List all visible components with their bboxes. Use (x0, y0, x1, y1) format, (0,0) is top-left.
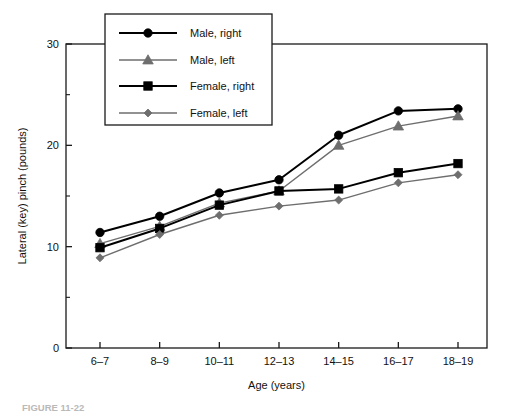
y-tick-label: 30 (47, 38, 59, 50)
legend-label: Male, right (190, 27, 241, 39)
marker-square (215, 201, 223, 209)
marker-diamond (394, 179, 402, 187)
x-tick-label: 18–19 (443, 355, 474, 367)
y-axis: 0102030 (47, 38, 72, 354)
y-tick-label: 10 (47, 241, 59, 253)
marker-diamond (275, 202, 283, 210)
x-tick-label: 8–9 (150, 355, 168, 367)
marker-circle (155, 212, 163, 220)
marker-square (96, 243, 104, 251)
marker-diamond (454, 171, 462, 179)
x-tick-label: 10–11 (204, 355, 234, 367)
x-tick-label: 12–13 (264, 355, 295, 367)
series-female-left (96, 171, 462, 262)
marker-diamond (215, 211, 223, 219)
marker-triangle (453, 111, 464, 120)
legend: Male, rightMale, leftFemale, rightFemale… (105, 14, 272, 125)
legend-label: Male, left (190, 54, 235, 66)
data-series-group (95, 105, 464, 262)
x-tick-label: 6–7 (91, 355, 109, 367)
figure-caption: FIGURE 11-22 (22, 402, 84, 412)
marker-square (454, 159, 462, 167)
marker-circle (334, 131, 342, 139)
marker-square (394, 168, 402, 176)
y-tick-label: 20 (47, 139, 59, 151)
marker-circle (275, 176, 283, 184)
marker-circle (394, 107, 402, 115)
marker-square (275, 187, 283, 195)
marker-circle (215, 189, 223, 197)
x-axis-title: Age (years) (248, 379, 305, 391)
marker-square (144, 82, 152, 90)
y-tick-label: 0 (53, 342, 59, 354)
marker-circle (144, 29, 152, 37)
legend-label: Female, right (190, 80, 254, 92)
series-line (100, 109, 458, 233)
x-axis: 6–78–910–1112–1314–1516–1718–19 (91, 342, 473, 367)
x-tick-label: 14–15 (323, 355, 354, 367)
legend-label: Female, left (190, 107, 247, 119)
x-tick-label: 16–17 (383, 355, 414, 367)
marker-circle (96, 228, 104, 236)
y-axis-title: Lateral (key) pinch (pounds) (16, 128, 28, 265)
figure-container: 0102030 6–78–910–1112–1314–1516–1718–19 … (0, 0, 505, 412)
marker-square (334, 185, 342, 193)
marker-diamond (96, 254, 104, 262)
lateral-key-pinch-line-chart: 0102030 6–78–910–1112–1314–1516–1718–19 … (0, 0, 505, 412)
marker-diamond (335, 196, 343, 204)
